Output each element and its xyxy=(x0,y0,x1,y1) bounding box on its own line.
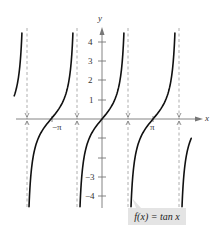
tan-graph xyxy=(0,0,216,228)
y-axis xyxy=(98,34,106,208)
y-tick-label-3: 3 xyxy=(88,57,93,66)
branch-right-partial xyxy=(182,138,191,207)
x-axis xyxy=(16,116,200,122)
branch-neg-pi xyxy=(29,33,73,207)
label-pointer xyxy=(132,198,141,208)
branch-left-partial xyxy=(14,33,22,96)
function-label-text: f(x) = tan x xyxy=(134,211,179,222)
x-tick-label-neg-pi: −π xyxy=(52,123,62,132)
y-tick-label-1: 1 xyxy=(89,96,94,105)
tan-curve xyxy=(14,33,191,207)
branch-pi xyxy=(131,33,175,207)
y-axis-arrow-icon xyxy=(100,27,105,35)
x-axis-label: x xyxy=(205,114,209,123)
function-label: f(x) = tan x xyxy=(128,208,186,225)
y-tick-label-4: 4 xyxy=(88,38,93,47)
y-tick-label-2: 2 xyxy=(88,76,93,85)
y-axis-label: y xyxy=(98,14,102,23)
y-tick-label-neg3: −3 xyxy=(85,173,95,182)
y-tick-label-neg4: −4 xyxy=(85,192,95,201)
x-axis-arrow-icon xyxy=(195,117,203,122)
x-tick-label-pi: π xyxy=(150,123,155,132)
